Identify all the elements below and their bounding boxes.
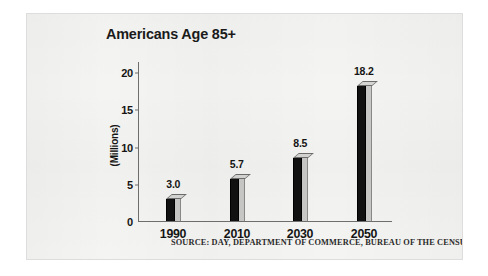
y-tick-label: 5	[127, 179, 133, 191]
bar-front-face	[293, 158, 302, 221]
bar-side-face	[366, 81, 372, 221]
y-tick-mark	[135, 184, 139, 185]
bar-front-face	[357, 86, 366, 221]
y-tick-label: 15	[121, 104, 133, 116]
y-tick-label: 10	[121, 142, 133, 154]
y-axis-line	[138, 62, 139, 222]
y-axis-label: (Millions)	[109, 125, 120, 167]
x-axis-line	[138, 221, 392, 222]
chart-title: Americans Age 85+	[106, 25, 236, 43]
bar-side-face	[239, 174, 245, 221]
bar-value-label: 3.0	[166, 178, 180, 190]
bar-value-label: 18.2	[354, 65, 374, 77]
source-note: SOURCE: DAY, DEPARTMENT OF COMMERCE, BUR…	[171, 238, 463, 247]
bar-top-face	[230, 174, 251, 179]
bar-value-label: 5.7	[230, 158, 244, 170]
bar-top-face	[166, 194, 187, 199]
y-tick-mark	[135, 147, 139, 148]
plot-area: (Millions) 05101520 3.019905.720108.5203…	[138, 62, 392, 222]
y-tick-label: 0	[127, 216, 133, 228]
bar-front-face	[166, 199, 175, 221]
y-tick-label: 20	[121, 67, 133, 79]
bar-value-label: 8.5	[293, 137, 307, 149]
bar-top-face	[293, 153, 314, 158]
chart-screenshot: Americans Age 85+ (Millions) 05101520 3.…	[0, 0, 488, 276]
bar-front-face	[230, 179, 239, 221]
y-tick-mark	[135, 110, 139, 111]
bar-top-face	[357, 81, 378, 86]
y-tick-mark	[135, 73, 139, 74]
bar-side-face	[302, 153, 308, 221]
chart-panel: Americans Age 85+ (Millions) 05101520 3.…	[26, 13, 463, 260]
